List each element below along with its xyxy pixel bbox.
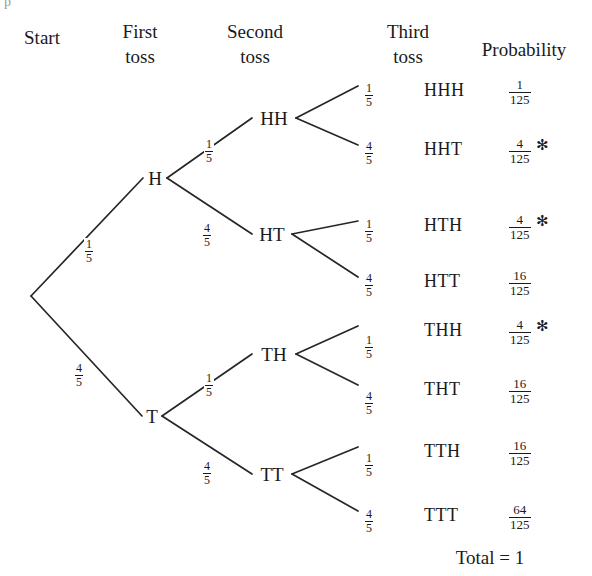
outcome-thh: THH xyxy=(424,321,463,339)
edge-h-hh-probability-label: 15 xyxy=(204,138,214,165)
edge-th-thh-probability-label: 15 xyxy=(364,334,374,361)
tree-branches xyxy=(0,0,592,576)
edge-root-t xyxy=(31,296,142,416)
edge-th-tht xyxy=(296,354,358,385)
edge-root-t-probability-label: 45 xyxy=(74,362,84,389)
outcome-hht: HHT xyxy=(424,140,463,158)
total-label: Total = 1 xyxy=(456,548,525,567)
edge-tt-tth xyxy=(292,447,358,474)
outcome-tht: THT xyxy=(424,380,461,398)
highlight-asterisk: ✻ xyxy=(536,213,549,229)
probability-tree-figure: p 1545154515451545154515451545StartFirst… xyxy=(0,0,592,576)
edge-tt-ttt xyxy=(292,474,358,511)
edge-hh-hhh xyxy=(296,86,358,118)
outcome-ttt: TTT xyxy=(424,506,459,524)
header-line2: toss xyxy=(387,47,429,66)
outcome-hhh: HHH xyxy=(424,81,465,99)
edge-hh-hhh-probability-label: 15 xyxy=(364,82,374,109)
outcome-htt-probability: 16125 xyxy=(508,269,532,298)
edge-th-tht-probability-label: 45 xyxy=(364,390,374,417)
header-line2: toss xyxy=(123,47,158,66)
edge-ht-htt-probability-label: 45 xyxy=(364,272,374,299)
edge-root-h-probability-label: 15 xyxy=(84,238,94,265)
column-header-third-toss: Thirdtoss xyxy=(387,22,429,66)
highlight-asterisk: ✻ xyxy=(536,318,549,334)
outcome-tht-probability: 16125 xyxy=(508,377,532,406)
edge-th-thh xyxy=(296,326,358,354)
tree-node-t: T xyxy=(144,407,160,426)
outcome-htt: HTT xyxy=(424,272,461,290)
tree-node-ht: HT xyxy=(257,225,286,244)
outcome-tth-probability: 16125 xyxy=(508,439,532,468)
column-header-start: Start xyxy=(24,28,60,47)
edge-ht-hth xyxy=(292,221,358,234)
edge-hh-hht xyxy=(296,118,358,145)
column-header-probability: Probability xyxy=(482,40,566,59)
column-header-second-toss: Secondtoss xyxy=(227,22,283,66)
tree-node-hh: HH xyxy=(258,109,289,128)
outcome-hht-probability: 4125✻ xyxy=(508,137,549,166)
outcome-hth-probability: 4125✻ xyxy=(508,213,549,242)
header-line1: Third xyxy=(387,21,429,42)
edge-ht-htt xyxy=(292,234,358,277)
header-line1: First xyxy=(123,21,158,42)
outcome-ttt-probability: 64125 xyxy=(508,503,532,532)
edge-tt-ttt-probability-label: 45 xyxy=(364,508,374,535)
tree-node-th: TH xyxy=(259,345,288,364)
outcome-tth: TTH xyxy=(424,442,461,460)
edge-t-th-probability-label: 15 xyxy=(204,372,214,399)
highlight-asterisk: ✻ xyxy=(536,137,549,153)
header-line1: Start xyxy=(24,27,60,48)
header-line1: Second xyxy=(227,21,283,42)
tree-node-tt: TT xyxy=(258,465,285,484)
outcome-hth: HTH xyxy=(424,216,463,234)
edge-hh-hht-probability-label: 45 xyxy=(364,140,374,167)
tree-node-h: H xyxy=(146,169,164,188)
outcome-thh-probability: 4125✻ xyxy=(508,318,549,347)
edge-t-tt-probability-label: 45 xyxy=(202,460,212,487)
edge-h-ht-probability-label: 45 xyxy=(202,222,212,249)
header-line2: toss xyxy=(227,47,283,66)
column-header-first-toss: Firsttoss xyxy=(123,22,158,66)
outcome-hhh-probability: 1125 xyxy=(508,78,532,107)
edge-ht-hth-probability-label: 15 xyxy=(364,218,374,245)
edge-tt-tth-probability-label: 15 xyxy=(364,452,374,479)
header-line1: Probability xyxy=(482,39,566,60)
